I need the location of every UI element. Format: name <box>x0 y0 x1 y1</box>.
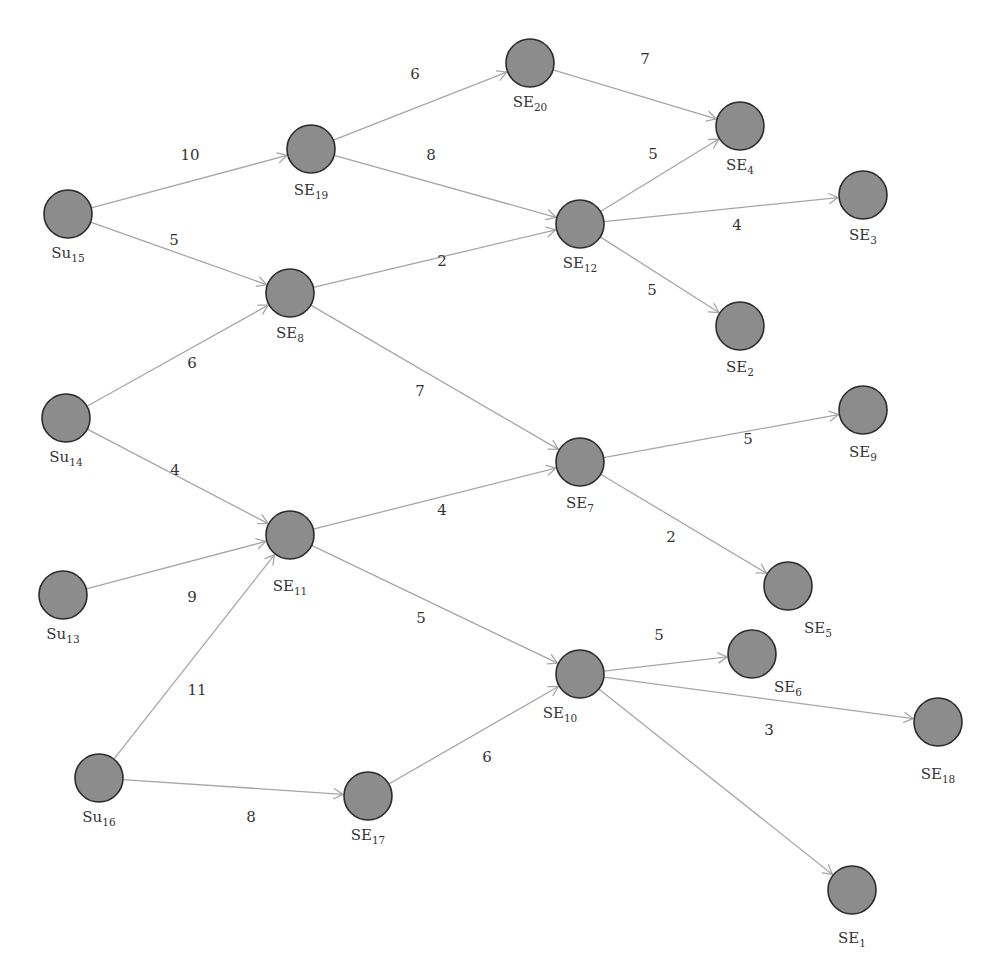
edge-SE10-SE6 <box>604 653 727 671</box>
edge-weight-label: 7 <box>640 50 650 68</box>
edge-weight-label: 10 <box>180 146 199 164</box>
node-label-subscript: 13 <box>66 633 79 645</box>
node-SE7: SE7 <box>556 438 604 514</box>
edge-line <box>114 555 275 759</box>
node-label-subscript: 14 <box>69 456 83 468</box>
edge-weight-label: 6 <box>187 354 197 372</box>
node-label: Su15 <box>51 244 84 264</box>
node-label: SE19 <box>294 181 329 201</box>
node-circle <box>556 200 604 248</box>
node-label-base: SE <box>273 577 294 595</box>
edge-SE7-SE5 <box>601 474 767 573</box>
edge-weight-label: 5 <box>169 231 179 249</box>
edge-weight-label: 3 <box>764 721 774 739</box>
node-label-base: SE <box>276 324 297 342</box>
edge-weight-label: 5 <box>654 626 664 644</box>
node-label: Su13 <box>46 625 79 645</box>
node-SE4: SE4 <box>716 102 764 176</box>
node-label-subscript: 11 <box>294 585 307 597</box>
edge-Su13-SE11 <box>86 539 266 589</box>
node-circle <box>716 302 764 350</box>
edge-line <box>389 686 559 784</box>
node-label-subscript: 10 <box>564 712 577 724</box>
node-Su16: Su16 <box>75 754 123 828</box>
node-label-base: SE <box>774 678 795 696</box>
node-circle <box>39 571 87 619</box>
edge-line <box>313 468 555 529</box>
node-label: SE17 <box>351 826 386 846</box>
node-label-subscript: 15 <box>71 252 84 264</box>
edge-weight-label: 5 <box>648 145 658 163</box>
edge-weight-label: 2 <box>666 528 676 546</box>
node-label-subscript: 5 <box>825 627 832 639</box>
edge-SE8-SE12 <box>313 227 555 287</box>
supply-network-diagram: 105649118682745675455253 Su15Su14Su13Su1… <box>0 0 990 975</box>
node-label: SE6 <box>774 678 802 698</box>
edge-line <box>600 139 718 211</box>
edge-line <box>87 305 268 406</box>
node-SE11: SE11 <box>266 511 314 597</box>
node-SE19: SE19 <box>287 125 335 201</box>
node-label-base: SE <box>849 226 870 244</box>
edge-weight-label: 4 <box>170 461 180 479</box>
node-label: SE5 <box>804 619 832 639</box>
node-Su13: Su13 <box>39 571 87 645</box>
edge-weight-label: 2 <box>437 252 447 270</box>
edge-SE10-SE18 <box>604 677 913 722</box>
edge-SE20-SE4 <box>553 70 716 121</box>
node-label: SE9 <box>849 443 877 463</box>
edge-weight-label: 4 <box>437 501 447 519</box>
node-label-subscript: 1 <box>859 937 866 949</box>
node-circle <box>556 650 604 698</box>
node-label-subscript: 8 <box>297 332 304 344</box>
edge-weight-label: 6 <box>482 748 492 766</box>
edge-line <box>334 155 556 217</box>
node-SE5: SE5 <box>764 562 832 639</box>
node-label-base: Su <box>49 448 69 466</box>
edge-weights-layer: 105649118682745675455253 <box>169 50 774 826</box>
edge-SE10-SE1 <box>599 689 833 875</box>
node-label-base: SE <box>804 619 825 637</box>
edge-line <box>604 415 839 458</box>
node-label-subscript: 4 <box>747 164 754 176</box>
node-label: SE1 <box>838 929 866 949</box>
edge-SE19-SE20 <box>333 71 506 140</box>
node-label-subscript: 17 <box>372 834 385 846</box>
node-circle <box>839 386 887 434</box>
edge-weight-label: 5 <box>743 430 753 448</box>
edge-weight-label: 9 <box>187 588 197 606</box>
node-circle <box>287 125 335 173</box>
edge-SE12-SE2 <box>600 237 719 313</box>
edge-weight-label: 4 <box>732 216 742 234</box>
node-label-subscript: 16 <box>102 816 116 828</box>
node-SE8: SE8 <box>266 269 314 344</box>
node-circle <box>764 562 812 610</box>
node-label-base: SE <box>351 826 372 844</box>
node-label-base: Su <box>46 625 66 643</box>
node-SE2: SE2 <box>716 302 764 378</box>
node-label-subscript: 19 <box>315 189 328 201</box>
node-label: SE2 <box>726 358 754 378</box>
node-label-subscript: 2 <box>747 366 754 378</box>
edge-line <box>312 545 558 663</box>
edge-line <box>333 72 506 140</box>
node-label: SE10 <box>543 704 578 724</box>
edge-weight-label: 7 <box>415 382 425 400</box>
edge-weight-label: 5 <box>647 281 657 299</box>
node-circle <box>506 39 554 87</box>
node-label-base: Su <box>51 244 71 262</box>
node-label-base: SE <box>849 443 870 461</box>
node-circle <box>728 630 776 678</box>
edge-line <box>313 230 555 288</box>
node-label-subscript: 20 <box>534 101 547 113</box>
node-Su14: Su14 <box>42 394 90 468</box>
node-SE12: SE12 <box>556 200 604 274</box>
node-label-base: SE <box>921 765 942 783</box>
node-label-base: SE <box>838 929 859 947</box>
node-label-base: SE <box>566 494 587 512</box>
node-label: SE7 <box>566 494 594 514</box>
edge-weight-label: 8 <box>246 808 256 826</box>
node-SE18: SE18 <box>914 698 962 785</box>
node-label-base: Su <box>82 808 102 826</box>
node-SE20: SE20 <box>506 39 554 113</box>
